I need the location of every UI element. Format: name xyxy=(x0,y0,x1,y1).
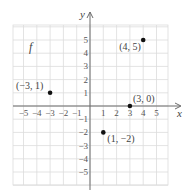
svg-text:1: 1 xyxy=(101,108,106,118)
svg-text:−5: −5 xyxy=(19,108,29,118)
x-axis-label: x xyxy=(176,107,182,119)
svg-text:−5: −5 xyxy=(78,167,88,177)
svg-text:2: 2 xyxy=(84,75,89,85)
svg-text:−2: −2 xyxy=(59,108,69,118)
svg-text:−4: −4 xyxy=(78,154,88,164)
svg-text:4: 4 xyxy=(141,108,146,118)
point-label: (3, 0) xyxy=(133,93,155,105)
function-label: f xyxy=(29,40,34,54)
coordinate-plane: −5−4−3−2−112345−5−4−3−2−112345 x y f (−3… xyxy=(0,0,193,195)
data-point xyxy=(101,130,106,135)
point-label: (1, −2) xyxy=(107,133,134,145)
y-axis-label: y xyxy=(79,8,85,20)
svg-text:5: 5 xyxy=(84,35,89,45)
svg-text:3: 3 xyxy=(84,61,89,71)
svg-text:−3: −3 xyxy=(45,108,55,118)
data-point xyxy=(128,104,133,109)
svg-text:3: 3 xyxy=(128,108,133,118)
axes xyxy=(13,12,181,190)
svg-text:−1: −1 xyxy=(78,114,88,124)
point-label: (4, 5) xyxy=(119,41,141,53)
svg-text:−2: −2 xyxy=(78,127,88,137)
data-point xyxy=(141,38,146,43)
svg-text:2: 2 xyxy=(114,108,119,118)
svg-text:4: 4 xyxy=(84,48,89,58)
svg-text:1: 1 xyxy=(84,88,89,98)
point-label: (−3, 1) xyxy=(16,80,43,92)
svg-text:5: 5 xyxy=(154,108,159,118)
svg-text:−3: −3 xyxy=(78,141,88,151)
svg-text:−4: −4 xyxy=(32,108,42,118)
data-point xyxy=(48,91,53,96)
